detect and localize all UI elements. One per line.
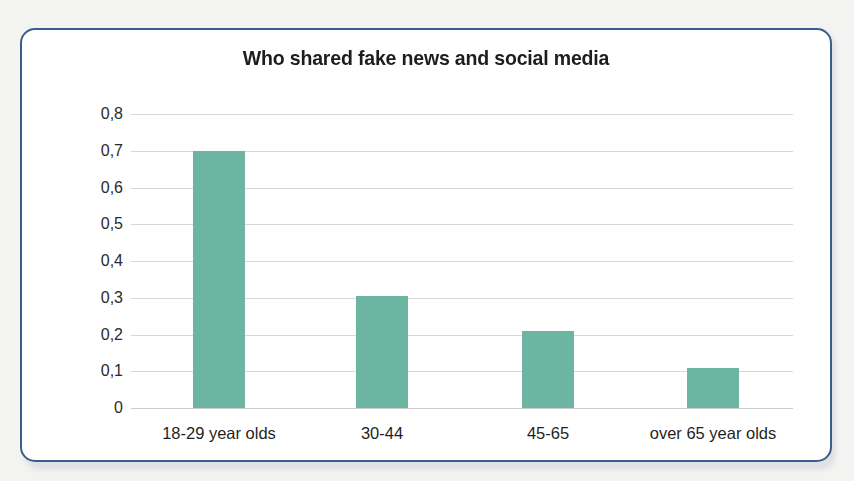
y-axis-tick-label: 0,5	[101, 215, 123, 233]
gridline	[131, 114, 793, 115]
bar	[193, 151, 245, 408]
y-axis-tick-label: 0,3	[101, 289, 123, 307]
y-axis-tick-label: 0,4	[101, 252, 123, 270]
x-axis-tick-label: 45-65	[527, 424, 569, 443]
page-background: Who shared fake news and social media 0,…	[0, 0, 854, 481]
y-axis-tick-label: 0,2	[101, 326, 123, 344]
x-axis-tick-label: over 65 year olds	[650, 424, 777, 443]
x-axis-tick-label: 18-29 year olds	[162, 424, 276, 443]
x-axis-tick-label: 30-44	[361, 424, 403, 443]
y-axis-tick-label: 0,8	[101, 105, 123, 123]
y-axis-tick-label: 0,7	[101, 142, 123, 160]
plot-area: 0,80,70,60,50,40,30,20,1018-29 year olds…	[131, 114, 793, 408]
bar	[687, 368, 739, 408]
page-title: Who shared fake news and social media	[50, 46, 801, 70]
bar	[522, 331, 574, 408]
y-axis-tick-label: 0,1	[101, 362, 123, 380]
y-axis-tick-label: 0	[114, 399, 123, 417]
axis-baseline	[131, 408, 793, 409]
y-axis-tick-label: 0,6	[101, 179, 123, 197]
chart-card: Who shared fake news and social media 0,…	[20, 28, 832, 462]
bar	[356, 296, 408, 408]
